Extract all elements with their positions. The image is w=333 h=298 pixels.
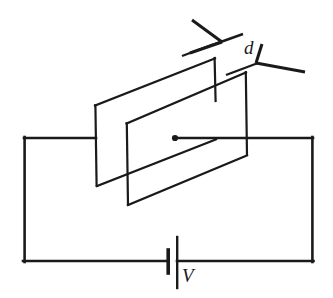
back-plate-top-edge — [95, 58, 215, 105]
back-plate-bottom-edge — [97, 140, 216, 187]
circuit-loop-wires — [23, 137, 314, 262]
dim-lower-arrow-upper-barb — [256, 44, 262, 63]
circuit-diagram-canvas: d V — [0, 0, 333, 298]
voltage-label: V — [182, 265, 196, 286]
front-plate-top-edge — [127, 72, 246, 123]
back-plate-left-edge — [95, 105, 96, 186]
back-capacitor-plate — [95, 58, 216, 186]
plate-connection-dot — [172, 135, 178, 141]
battery-symbol — [168, 237, 177, 288]
front-plate-right-edge — [246, 72, 247, 155]
back-plate-right-edge — [215, 58, 216, 101]
dim-upper-arrow-upper-barb — [192, 20, 222, 42]
separation-label: d — [244, 37, 254, 58]
dim-lower-arrow-lower-barb — [256, 63, 305, 72]
plate-lead-group — [172, 135, 178, 141]
capacitor-circuit-figure: d V — [0, 0, 333, 298]
front-plate-bottom-edge — [128, 156, 247, 206]
front-plate-left-edge — [127, 123, 128, 205]
